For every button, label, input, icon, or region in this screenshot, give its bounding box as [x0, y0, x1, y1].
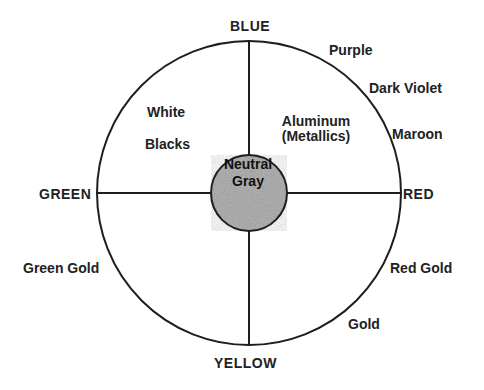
- label-blacks: Blacks: [145, 136, 190, 152]
- label-aluminum: Aluminum: [276, 114, 356, 129]
- label-gold: Gold: [348, 316, 380, 332]
- label-dark-violet: Dark Violet: [369, 80, 442, 96]
- axis-label-blue: BLUE: [230, 18, 270, 34]
- axis-label-green: GREEN: [39, 186, 91, 202]
- label-maroon: Maroon: [392, 126, 443, 142]
- label-white: White: [147, 104, 185, 120]
- label-purple: Purple: [329, 42, 373, 58]
- axis-label-yellow: YELLOW: [214, 355, 277, 371]
- label-metallics: (Metallics): [276, 129, 356, 144]
- core-label-line2: Gray: [210, 173, 286, 190]
- label-red-gold: Red Gold: [390, 260, 452, 276]
- core-label-line1: Neutral: [210, 156, 286, 173]
- label-green-gold: Green Gold: [23, 260, 99, 276]
- axis-label-red: RED: [403, 186, 434, 202]
- core-label: Neutral Gray: [210, 156, 286, 190]
- label-aluminum-metallics: Aluminum (Metallics): [276, 114, 356, 144]
